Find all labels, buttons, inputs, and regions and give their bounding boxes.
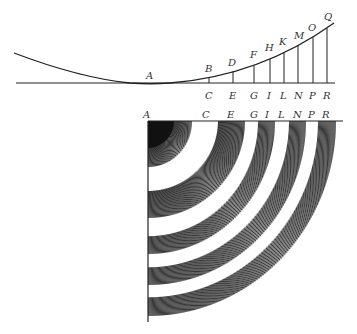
bottom-figure: A CEGILNPR — [142, 109, 343, 322]
axis-label-i: I — [264, 109, 270, 120]
upper-label-k: K — [278, 36, 287, 47]
base-label-p: P — [308, 90, 316, 101]
hatch-line — [152, 267, 153, 285]
label-a: A — [145, 70, 153, 81]
upper-label-d: D — [227, 57, 236, 68]
axis-label-e: E — [226, 109, 235, 120]
base-label-n: N — [293, 90, 304, 101]
upper-label-f: F — [249, 49, 258, 60]
hatch-line — [318, 127, 336, 128]
axis-label-n: N — [292, 109, 303, 120]
axis-label-p: P — [307, 109, 315, 120]
axis-label-l: L — [277, 109, 285, 120]
ring-1 — [148, 121, 192, 167]
base-label-r: R — [322, 90, 331, 101]
hatch-line — [153, 267, 154, 285]
hatch-line — [149, 191, 150, 218]
upper-label-b: B — [204, 63, 212, 74]
ordinates — [209, 28, 327, 83]
upper-label-m: M — [293, 30, 305, 41]
axis-label-g: G — [250, 109, 258, 120]
concentric-rings — [148, 121, 336, 316]
top-figure: A BDFHKMOQ CEGILNPR — [14, 11, 335, 101]
origin-label-a: A — [142, 109, 150, 120]
axis-label-c: C — [202, 109, 210, 120]
axis-label-r: R — [321, 109, 330, 120]
upper-label-q: Q — [324, 11, 332, 22]
upper-label-h: H — [264, 42, 274, 53]
hatch-line — [153, 297, 154, 316]
base-label-e: E — [228, 90, 237, 101]
base-label-l: L — [279, 90, 287, 101]
hatch-line — [318, 127, 336, 128]
base-label-g: G — [250, 90, 258, 101]
hatch-line — [289, 126, 306, 127]
catenary-curve — [14, 23, 334, 84]
upper-label-o: O — [308, 22, 316, 33]
diagram: A BDFHKMOQ CEGILNPR A CEGILNPR — [0, 0, 357, 334]
hatch-line — [258, 125, 275, 126]
base-label-i: I — [266, 90, 272, 101]
hatch-line — [151, 236, 152, 254]
hatch-line — [289, 126, 306, 127]
base-label-c: C — [205, 90, 213, 101]
